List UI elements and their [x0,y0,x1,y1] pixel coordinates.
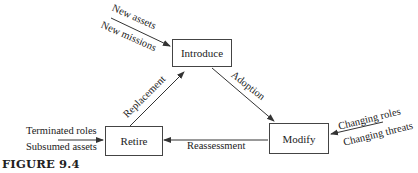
input-subsumed-assets: Subsumed assets [26,141,97,152]
node-modify: Modify [269,123,329,154]
input-terminated-roles: Terminated roles [26,125,97,136]
figure-caption: FIGURE 9.4 [2,157,80,171]
node-retire: Retire [105,126,163,156]
node-introduce: Introduce [172,39,232,67]
node-introduce-label: Introduce [181,47,223,59]
edge-label-reassessment: Reassessment [187,140,245,151]
node-modify-label: Modify [283,133,316,145]
node-retire-label: Retire [121,135,148,147]
